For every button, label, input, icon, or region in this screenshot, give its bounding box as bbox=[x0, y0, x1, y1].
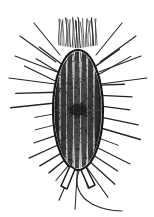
organism-illustration bbox=[0, 0, 154, 217]
figure-root bbox=[0, 0, 154, 217]
